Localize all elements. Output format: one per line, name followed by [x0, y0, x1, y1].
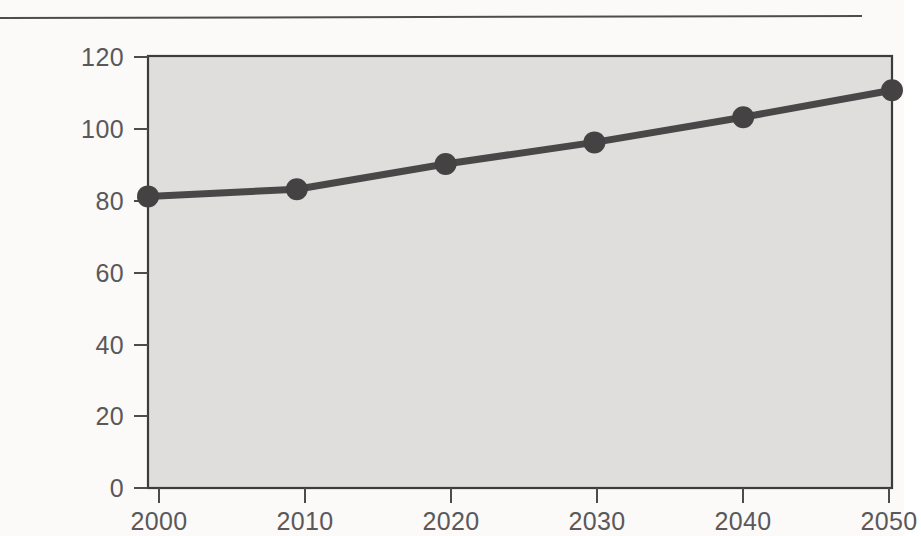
y-tick-label-100: 100 [81, 115, 124, 143]
line-chart-figure: 120 100 80 60 40 20 0 2000 2010 [40, 16, 921, 536]
data-point-marker [881, 79, 903, 101]
x-tick-label-2020: 2020 [422, 507, 479, 535]
y-tick-label-80: 80 [95, 187, 124, 215]
y-tick-label-60: 60 [95, 259, 124, 287]
data-point-marker [732, 106, 754, 128]
x-axis-tick-labels: 2000 2010 2020 2030 2040 2050 [130, 507, 917, 535]
x-tick-label-2040: 2040 [714, 507, 771, 535]
chart-canvas: 120 100 80 60 40 20 0 2000 2010 [40, 16, 921, 536]
y-tick-label-120: 120 [81, 43, 124, 71]
data-point-marker [435, 153, 457, 175]
y-tick-label-40: 40 [95, 331, 124, 359]
data-point-marker [583, 131, 605, 153]
x-tick-label-2000: 2000 [130, 507, 187, 535]
y-tick-label-0: 0 [110, 474, 124, 502]
data-point-marker [137, 185, 159, 207]
x-tick-label-2050: 2050 [860, 507, 917, 535]
y-axis-ticks [134, 57, 148, 488]
plot-area-background [148, 56, 892, 488]
x-tick-label-2010: 2010 [276, 507, 333, 535]
x-axis-ticks [159, 488, 889, 503]
y-tick-label-20: 20 [95, 402, 124, 430]
data-point-marker [286, 178, 308, 200]
x-tick-label-2030: 2030 [568, 507, 625, 535]
y-axis-tick-labels: 120 100 80 60 40 20 0 [81, 43, 124, 502]
